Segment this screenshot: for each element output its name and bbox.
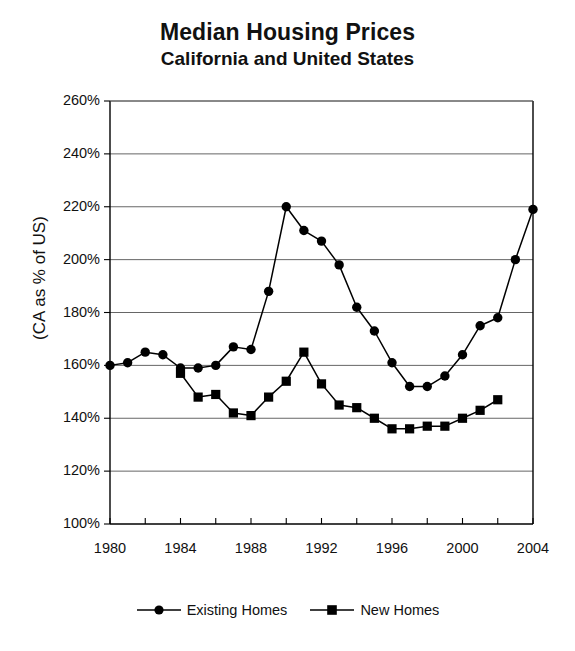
data-series-layer: [105, 202, 537, 433]
chart-figure: Median Housing Prices California and Uni…: [0, 0, 575, 651]
x-axis-ticks: [110, 518, 533, 524]
plot-area: [0, 0, 575, 651]
legend-label-existing-homes: Existing Homes: [187, 602, 288, 618]
chart-legend: Existing Homes New Homes: [0, 602, 575, 618]
legend-label-new-homes: New Homes: [360, 602, 439, 618]
series-new-homes: [176, 348, 502, 434]
legend-item-existing-homes: Existing Homes: [136, 602, 288, 618]
series-existing-homes: [105, 202, 537, 391]
legend-marker-square-icon: [309, 603, 355, 617]
legend-marker-circle-icon: [136, 603, 182, 617]
y-axis-ticks: [104, 101, 110, 524]
legend-item-new-homes: New Homes: [309, 602, 439, 618]
